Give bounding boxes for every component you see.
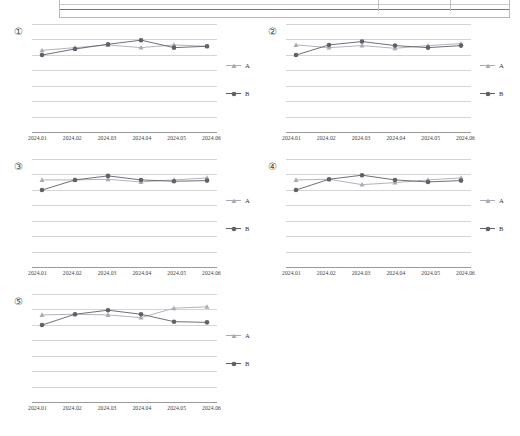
data-point-A (294, 42, 299, 47)
data-point-B (172, 45, 177, 50)
x-axis-tick-label: 2024.06 (456, 270, 475, 276)
chart-panel-3[interactable]: ③ 2024.012024.022024.032024.042024.05202… (8, 157, 258, 292)
triangle-marker-icon (480, 196, 495, 205)
series-svg-3 (32, 159, 217, 267)
data-point-B (139, 312, 144, 317)
chart-panel-5[interactable]: ⑤ 2024.012024.022024.032024.042024.05202… (8, 292, 258, 427)
legend-item-B[interactable]: B (226, 88, 264, 99)
gridline (286, 267, 471, 268)
series-svg-4 (286, 159, 471, 267)
x-axis-tick-label: 2024.04 (132, 270, 151, 276)
legend-label: B (499, 90, 503, 97)
circle-marker-icon (226, 224, 241, 233)
legend-label: A (245, 197, 250, 204)
x-axis-tick-label: 2024.01 (28, 270, 47, 276)
legend-item-A[interactable]: A (480, 195, 518, 206)
gridline (32, 267, 217, 268)
x-axis-tick-label: 2024.03 (98, 270, 117, 276)
circle-marker-icon (480, 224, 495, 233)
legend-label: B (245, 360, 249, 367)
legend-5: AB (226, 330, 264, 386)
data-point-B (40, 188, 45, 193)
legend-1: AB (226, 60, 264, 116)
plot-area-5 (32, 294, 217, 402)
x-axis-tick-label: 2024.01 (282, 270, 301, 276)
table-column-divider (450, 0, 451, 11)
legend-label: A (499, 197, 504, 204)
data-point-B (106, 42, 111, 47)
series-line-B (42, 310, 207, 325)
data-point-B (40, 323, 45, 328)
gridline (32, 402, 217, 403)
series-line-B (42, 40, 207, 55)
data-point-B (73, 178, 78, 183)
x-axis-tick-label: 2024.01 (28, 405, 47, 411)
legend-item-A[interactable]: A (226, 195, 264, 206)
table-rule-light (60, 4, 509, 5)
legend-item-B[interactable]: B (480, 223, 518, 234)
legend-item-A[interactable]: A (480, 60, 518, 71)
x-axis-tick-label: 2024.04 (132, 135, 151, 141)
circle-marker-icon (226, 359, 241, 368)
x-axis-tick-label: 2024.03 (352, 270, 371, 276)
legend-label: B (499, 225, 503, 232)
x-axis-labels-4: 2024.012024.022024.032024.042024.052024.… (282, 270, 475, 282)
circle-marker-icon (480, 89, 495, 98)
legend-item-A[interactable]: A (226, 330, 264, 341)
x-axis-tick-label: 2024.06 (456, 135, 475, 141)
data-point-B (393, 43, 398, 48)
chart-panel-1[interactable]: ① 2024.012024.022024.032024.042024.05202… (8, 22, 258, 157)
data-point-B (205, 44, 210, 49)
data-point-B (327, 177, 332, 182)
data-point-B (139, 38, 144, 43)
data-point-B (106, 308, 111, 313)
data-point-B (294, 53, 299, 58)
legend-3: AB (226, 195, 264, 251)
triangle-marker-icon (226, 61, 241, 70)
chart-panel-2[interactable]: ② 2024.012024.022024.032024.042024.05202… (262, 22, 512, 157)
triangle-marker-icon (226, 331, 241, 340)
data-point-B (360, 173, 365, 178)
data-point-B (205, 320, 210, 325)
series-svg-5 (32, 294, 217, 402)
data-point-B (73, 312, 78, 317)
x-axis-tick-label: 2024.03 (98, 405, 117, 411)
data-point-B (426, 45, 431, 50)
legend-label: B (245, 225, 249, 232)
clipped-table-fragment (59, 0, 510, 18)
panel-number-4: ④ (266, 160, 279, 173)
x-axis-tick-label: 2024.06 (202, 405, 221, 411)
legend-item-B[interactable]: B (226, 358, 264, 369)
legend-item-B[interactable]: B (226, 223, 264, 234)
x-axis-labels-5: 2024.012024.022024.032024.042024.052024.… (28, 405, 221, 417)
series-line-B (42, 176, 207, 190)
x-axis-tick-label: 2024.04 (132, 405, 151, 411)
legend-2: AB (480, 60, 518, 116)
x-axis-tick-label: 2024.05 (421, 270, 440, 276)
x-axis-tick-label: 2024.04 (386, 135, 405, 141)
data-point-B (106, 174, 111, 179)
x-axis-tick-label: 2024.06 (202, 135, 221, 141)
panel-number-3: ③ (12, 160, 25, 173)
legend-item-A[interactable]: A (226, 60, 264, 71)
panel-number-1: ① (12, 25, 25, 38)
series-svg-2 (286, 24, 471, 132)
x-axis-labels-3: 2024.012024.022024.032024.042024.052024.… (28, 270, 221, 282)
x-axis-tick-label: 2024.05 (167, 135, 186, 141)
series-line-B (296, 175, 461, 190)
chart-panel-4[interactable]: ④ 2024.012024.022024.032024.042024.05202… (262, 157, 512, 292)
legend-label: A (499, 62, 504, 69)
gridline (286, 132, 471, 133)
triangle-marker-icon (480, 61, 495, 70)
x-axis-tick-label: 2024.06 (202, 270, 221, 276)
data-point-B (172, 179, 177, 184)
x-axis-tick-label: 2024.02 (317, 135, 336, 141)
x-axis-tick-label: 2024.03 (352, 135, 371, 141)
x-axis-tick-label: 2024.02 (317, 270, 336, 276)
legend-item-B[interactable]: B (480, 88, 518, 99)
circle-marker-icon (226, 89, 241, 98)
data-point-B (393, 178, 398, 183)
table-rule-dark (60, 9, 509, 10)
series-line-B (296, 42, 461, 56)
x-axis-tick-label: 2024.01 (282, 135, 301, 141)
